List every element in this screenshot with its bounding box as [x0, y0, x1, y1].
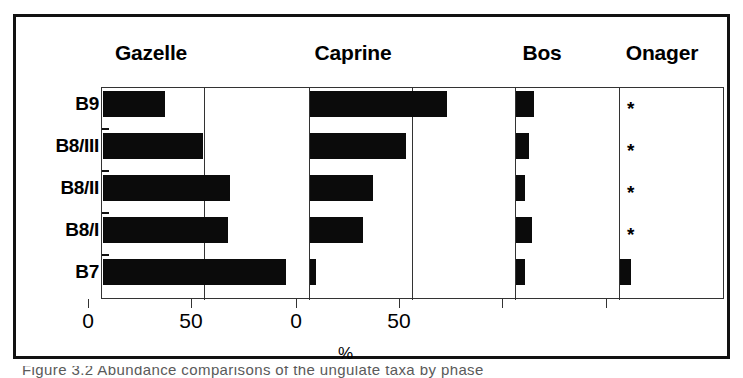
bar-gazelle-b8i	[103, 217, 228, 243]
bar-bos-b8ii	[516, 175, 525, 201]
bar-gazelle-b9	[103, 91, 165, 117]
figure-caption-text: Figure 3.2 Abundance comparisons of the …	[22, 366, 484, 378]
bar-gazelle-b8ii	[103, 175, 230, 201]
axis-tick-caprine-0	[296, 299, 297, 308]
axis-unit-label: %	[338, 344, 353, 364]
bar-caprine-b8iii	[310, 133, 406, 159]
axis-tick-label-caprine-50: 50	[379, 309, 419, 333]
axis-tick-label-caprine-0: 0	[276, 309, 316, 333]
bar-bos-b8iii	[516, 133, 529, 159]
minor-tick	[102, 212, 109, 214]
plot-area: * * * *	[101, 87, 724, 299]
category-label-b8i: B8/I	[21, 219, 99, 241]
onager-marker-b8i: *	[627, 225, 634, 244]
bar-caprine-b8ii	[310, 175, 373, 201]
panel-title-gazelle: Gazelle	[76, 41, 226, 65]
category-label-b7: B7	[21, 261, 99, 283]
bar-gazelle-b7	[103, 259, 286, 285]
axis-tick-onager-0	[606, 299, 607, 308]
onager-marker-b8ii: *	[627, 183, 634, 202]
figure-root: Gazelle Caprine Bos Onager B9 B8/III B8/…	[0, 0, 743, 378]
category-label-b8iii: B8/III	[21, 135, 99, 157]
onager-marker-b9: *	[627, 99, 634, 118]
axis-tick-label-gazelle-0: 0	[68, 309, 108, 333]
axis-tick-gazelle-50	[191, 299, 192, 308]
bar-bos-b8i	[516, 217, 532, 243]
minor-tick	[102, 170, 109, 172]
panel-title-bos: Bos	[482, 41, 602, 65]
panel-title-caprine: Caprine	[278, 41, 428, 65]
axis-tick-gazelle-0	[88, 299, 89, 308]
category-axis-labels: B9 B8/III B8/II B8/I B7	[16, 87, 99, 299]
bar-caprine-b7	[310, 259, 316, 285]
figure-frame: Gazelle Caprine Bos Onager B9 B8/III B8/…	[13, 14, 730, 359]
bar-bos-b9	[516, 91, 534, 117]
bar-bos-b7	[516, 259, 525, 285]
minor-tick	[102, 254, 109, 256]
figure-caption-clipped: Figure 3.2 Abundance comparisons of the …	[22, 366, 722, 378]
bar-onager-b7	[620, 259, 631, 285]
panel-title-onager: Onager	[594, 41, 730, 65]
bar-gazelle-b8iii	[103, 133, 203, 159]
axis-tick-caprine-50	[399, 299, 400, 308]
axis-tick-label-gazelle-50: 50	[171, 309, 211, 333]
bar-caprine-b9	[310, 91, 447, 117]
category-label-b9: B9	[21, 93, 99, 115]
onager-marker-b8iii: *	[627, 141, 634, 160]
gridline-caprine-50	[412, 88, 413, 300]
category-label-b8ii: B8/II	[21, 177, 99, 199]
minor-tick	[102, 128, 109, 130]
axis-tick-bos-0	[502, 299, 503, 308]
bar-caprine-b8i	[310, 217, 363, 243]
